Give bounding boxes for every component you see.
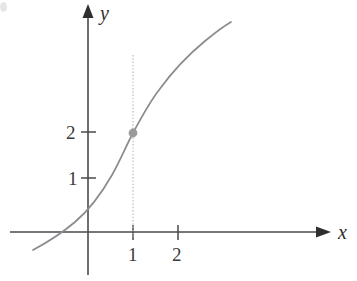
x-axis-arrow-icon — [316, 227, 331, 238]
y-axis-label: y — [100, 3, 109, 23]
y-tick-label-1: 1 — [68, 169, 78, 188]
coordinate-plot — [0, 0, 357, 281]
y-tick-label-2: 2 — [66, 123, 76, 142]
x-tick-label-1: 1 — [128, 245, 138, 264]
scan-artifact-smudge — [0, 2, 7, 12]
y-axis-arrow-icon — [83, 4, 94, 18]
marked-point-1-2 — [129, 129, 138, 138]
x-axis-label: x — [338, 222, 347, 242]
x-tick-label-2: 2 — [172, 245, 182, 264]
graph-figure: y x 2 1 1 2 — [0, 0, 357, 281]
